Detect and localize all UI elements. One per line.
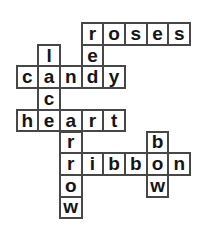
puzzle-cell-0-7: s — [167, 22, 191, 46]
puzzle-cell-5-2: r — [59, 131, 83, 155]
puzzle-cell-2-4: y — [102, 65, 126, 89]
puzzle-cell-6-6: o — [146, 152, 170, 176]
puzzle-cell-4-1: e — [37, 109, 61, 133]
puzzle-cell-1-1: l — [37, 44, 61, 68]
puzzle-cell-7-6: w — [146, 174, 170, 198]
puzzle-cell-2-3: d — [81, 65, 105, 89]
puzzle-cell-3-1: c — [37, 87, 61, 111]
puzzle-cell-6-3: i — [81, 152, 105, 176]
puzzle-cell-0-3: r — [81, 22, 105, 46]
puzzle-cell-7-2: o — [59, 174, 83, 198]
puzzle-cell-6-2: r — [59, 152, 83, 176]
puzzle-cell-0-4: o — [102, 22, 126, 46]
puzzle-cell-6-4: b — [102, 152, 126, 176]
crossword-board: roseslecandycheartrbribbonoww — [16, 22, 192, 220]
puzzle-cell-4-0: h — [16, 109, 40, 133]
puzzle-cell-2-0: c — [16, 65, 40, 89]
puzzle-cell-8-2: w — [59, 196, 83, 220]
puzzle-cell-6-7: n — [167, 152, 191, 176]
puzzle-cell-6-5: b — [124, 152, 148, 176]
puzzle-cell-1-3: e — [81, 44, 105, 68]
puzzle-cell-0-6: e — [146, 22, 170, 46]
puzzle-cell-0-5: s — [124, 22, 148, 46]
puzzle-cell-4-3: r — [81, 109, 105, 133]
puzzle-cell-4-2: a — [59, 109, 83, 133]
puzzle-cell-2-1: a — [37, 65, 61, 89]
puzzle-cell-2-2: n — [59, 65, 83, 89]
puzzle-cell-4-4: t — [102, 109, 126, 133]
puzzle-cell-5-6: b — [146, 131, 170, 155]
puzzle-page: roseslecandycheartrbribbonoww — [0, 0, 210, 252]
